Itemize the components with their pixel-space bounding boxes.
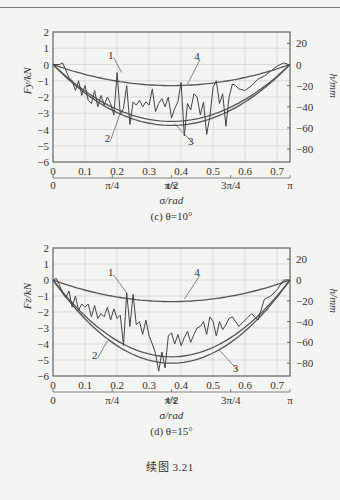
sigma-tick-label: 0 bbox=[50, 179, 56, 191]
sigma-tick-label: π bbox=[287, 394, 293, 406]
y-tick-label-right: 0 bbox=[296, 274, 302, 286]
y-tick-label-left: −3 bbox=[37, 322, 49, 334]
chart-panel-c: 210−1−2−3−4−5−6200−20−40−60−8000.10.20.3… bbox=[21, 26, 340, 223]
x-tick-label: 0.1 bbox=[78, 165, 92, 177]
y-axis-label-right: h/mm bbox=[328, 289, 340, 314]
curve-label-4: 4 bbox=[194, 50, 200, 62]
curve-label-1: 1 bbox=[108, 266, 114, 278]
y-tick-label-left: −4 bbox=[37, 338, 49, 350]
curve-label-2: 2 bbox=[105, 132, 111, 144]
y-tick-label-right: −60 bbox=[296, 336, 314, 348]
x-tick-label: 0.5 bbox=[206, 165, 220, 177]
leader-line-1 bbox=[114, 58, 122, 73]
x-tick-label: 0.3 bbox=[142, 165, 156, 177]
x-tick-label: 0.7 bbox=[270, 165, 284, 177]
sigma-tick-label: π bbox=[287, 179, 293, 191]
leader-line-2 bbox=[98, 341, 108, 358]
y-tick-label-left: 2 bbox=[44, 242, 50, 254]
curve-3 bbox=[53, 280, 290, 363]
y-tick-label-left: 0 bbox=[44, 59, 50, 71]
curve-label-1: 1 bbox=[108, 49, 114, 61]
y-tick-label-left: −5 bbox=[37, 354, 49, 366]
sigma-tick-label: 0 bbox=[50, 394, 56, 406]
x-tick-label: 0.1 bbox=[78, 379, 92, 391]
curve-4 bbox=[53, 280, 290, 302]
y-tick-label-left: −2 bbox=[37, 91, 49, 103]
leader-line-4 bbox=[188, 59, 201, 84]
sigma-tick-label: 3π/4 bbox=[221, 394, 241, 406]
leader-line-1 bbox=[114, 275, 127, 293]
y-tick-label-left: −4 bbox=[37, 124, 49, 136]
y-tick-label-left: 0 bbox=[44, 274, 50, 286]
sigma-tick-label: π/4 bbox=[105, 179, 120, 191]
sigma-tick-label: π/2 bbox=[164, 179, 178, 191]
sigma-tick-label: 3π/4 bbox=[221, 179, 241, 191]
y-tick-label-right: 20 bbox=[296, 253, 308, 265]
curve-label-4: 4 bbox=[194, 266, 200, 278]
y-tick-label-left: −6 bbox=[37, 370, 49, 382]
leader-line-4 bbox=[184, 275, 200, 299]
x-tick-label: 0.4 bbox=[174, 379, 188, 391]
x-tick-label: 0.6 bbox=[238, 379, 252, 391]
y-tick-label-left: −5 bbox=[37, 140, 49, 152]
sigma-axis-label: σ/rad bbox=[160, 194, 184, 206]
x-tick-label: 0.6 bbox=[238, 165, 252, 177]
x-tick-label: 0.4 bbox=[174, 165, 188, 177]
y-tick-label-left: −3 bbox=[37, 107, 49, 119]
x-tick-label: 0.5 bbox=[206, 379, 220, 391]
y-tick-label-left: −6 bbox=[37, 156, 49, 168]
leader-line-2 bbox=[110, 113, 120, 140]
y-axis-label-left: Fz/kN bbox=[21, 282, 33, 310]
x-tick-label: 0.7 bbox=[270, 379, 284, 391]
sigma-tick-label: π/2 bbox=[164, 394, 178, 406]
y-tick-label-left: 2 bbox=[44, 26, 50, 38]
y-tick-label-left: 1 bbox=[44, 258, 50, 270]
y-tick-label-left: −2 bbox=[37, 306, 49, 318]
curve-label-2: 2 bbox=[92, 349, 98, 361]
chart-panel-d: 210−1−2−3−4−5−6200−20−40−60−8000.10.20.3… bbox=[21, 242, 340, 438]
y-tick-label-right: −40 bbox=[296, 101, 314, 113]
y-tick-label-right: −20 bbox=[296, 295, 314, 307]
y-axis-label-left: Fy/kN bbox=[21, 67, 33, 96]
y-tick-label-right: −80 bbox=[296, 143, 314, 155]
curve-2 bbox=[53, 65, 290, 122]
sigma-tick-label: π/4 bbox=[105, 394, 120, 406]
y-tick-label-left: 1 bbox=[44, 42, 50, 54]
sigma-axis-label: σ/rad bbox=[160, 409, 184, 421]
y-tick-label-right: −80 bbox=[296, 357, 314, 369]
y-tick-label-left: −1 bbox=[37, 290, 49, 302]
y-tick-label-right: −20 bbox=[296, 80, 314, 92]
y-tick-label-right: −60 bbox=[296, 122, 314, 134]
y-tick-label-right: 0 bbox=[296, 59, 302, 71]
curve-label-3: 3 bbox=[188, 135, 194, 147]
y-tick-label-right: −40 bbox=[296, 316, 314, 328]
panel-subtitle: (c) θ=10° bbox=[151, 210, 193, 223]
y-tick-label-right: 20 bbox=[296, 37, 308, 49]
curve-label-3: 3 bbox=[233, 362, 239, 374]
figure-caption: 续图 3.21 bbox=[0, 458, 340, 474]
x-tick-label: 0.3 bbox=[142, 379, 156, 391]
y-axis-label-right: h/mm bbox=[328, 73, 340, 98]
panel-subtitle: (d) θ=15° bbox=[150, 425, 192, 438]
y-tick-label-left: −1 bbox=[37, 75, 49, 87]
chart-canvas: 210−1−2−3−4−5−6200−20−40−60−8000.10.20.3… bbox=[0, 0, 340, 500]
